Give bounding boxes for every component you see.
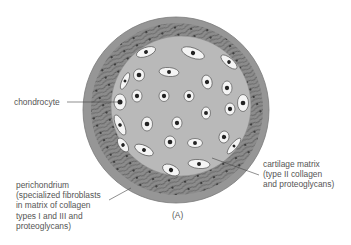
perichondrium-label-line1: perichondrium [16,180,101,190]
nucleus-dot [162,94,166,98]
nucleus-dot [228,107,232,111]
chondrocyte-cell [184,91,194,102]
chondrocyte-cell [188,139,203,148]
chondrocyte-cell [159,91,169,102]
cartilage-matrix-label-line3: and proteoglycans) [263,179,334,189]
perichondrium-label-line5: proteoglycans) [16,221,101,231]
chondrocyte-cell [225,103,235,115]
nucleus-dot [225,86,229,90]
chondrocyte-cell [222,81,232,95]
perichondrium-label: perichondrium (specialized fibroblasts i… [16,180,101,231]
perichondrium-leader-line [109,188,131,200]
nucleus-dot [137,73,142,78]
cartilage-matrix-label-line1: cartilage matrix [263,159,334,169]
nucleus-dot [145,122,150,127]
nucleus-dot [175,121,179,125]
nucleus-dot [187,94,191,98]
cartilage-matrix-label-line2: (type II collagen [263,169,334,179]
cartilage-matrix-label: cartilage matrix (type II collagen and p… [263,159,334,190]
perichondrium-label-line4: types I and III and [16,211,101,221]
chondrocyte-cell [142,117,153,131]
chondrocyte-cell [132,90,142,102]
nucleus-dot [135,94,139,98]
chondrocyte-cell [238,95,249,112]
perichondrium-label-line2: (specialized fibroblasts [16,190,101,200]
chondrocyte-label: chondrocyte [14,97,60,107]
nucleus-dot [204,111,208,115]
nucleus-dot [168,140,173,145]
nucleus-dot [241,101,246,106]
perichondrium-label-line3: in matrix of collagen [16,200,101,210]
chondrocyte-cell [165,136,176,148]
chondrocyte-cell [172,117,182,129]
chondrocyte-cell [202,107,211,119]
chondrocyte-cell [134,69,145,81]
panel-label: (A) [172,210,183,220]
nucleus-dot [193,141,197,145]
